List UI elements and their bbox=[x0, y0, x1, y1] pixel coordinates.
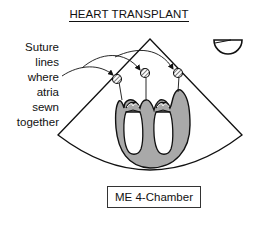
hatched-circle-icon bbox=[141, 69, 150, 78]
view-label-box: ME 4-Chamber bbox=[107, 186, 201, 208]
right-ventricle-cavity bbox=[154, 112, 173, 154]
left-ventricle-cavity bbox=[124, 112, 143, 154]
half-circle-probe-icon bbox=[214, 40, 242, 54]
hatched-circle-icon bbox=[174, 69, 183, 78]
suture-markers bbox=[113, 69, 183, 84]
suture-stalks bbox=[119, 76, 179, 100]
view-label: ME 4-Chamber bbox=[115, 191, 193, 203]
hatched-circle-icon bbox=[113, 75, 122, 84]
heart-four-chamber bbox=[116, 90, 190, 168]
